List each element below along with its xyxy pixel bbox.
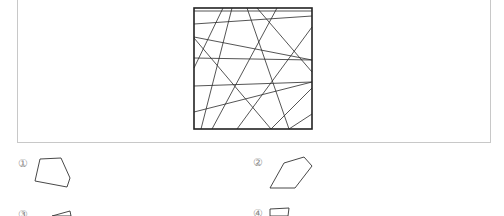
option-shape-3[interactable] — [52, 211, 71, 216]
option-shape-4[interactable] — [270, 208, 289, 216]
option-label-1[interactable]: ① — [18, 158, 28, 169]
figure-line — [201, 8, 232, 129]
figure-line — [194, 16, 312, 24]
figure-line — [237, 27, 312, 129]
line-figure — [0, 0, 504, 216]
figure-line — [194, 37, 312, 60]
option-shape-2[interactable] — [270, 157, 312, 188]
figure-line — [194, 82, 312, 86]
option-label-3[interactable]: ③ — [18, 209, 28, 216]
option-label-4[interactable]: ④ — [253, 208, 263, 216]
figure-line — [212, 8, 277, 129]
figure-line — [247, 8, 289, 129]
option-label-2[interactable]: ② — [253, 157, 263, 168]
figure-line — [289, 114, 312, 129]
option-shape-1[interactable] — [35, 158, 70, 187]
